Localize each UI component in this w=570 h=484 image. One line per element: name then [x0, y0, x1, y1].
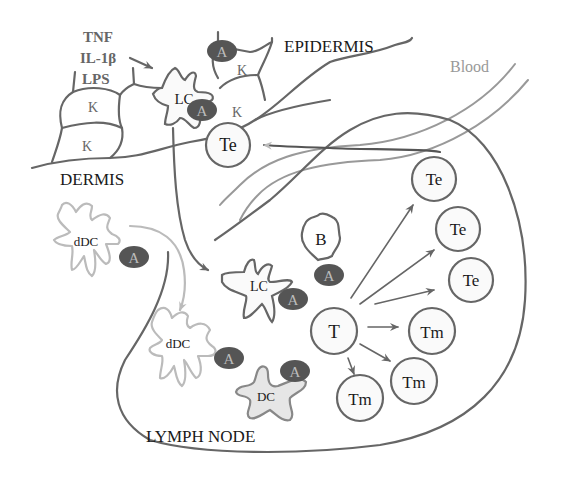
b-cell: B	[302, 213, 340, 260]
keratinocyte-label: K	[237, 63, 247, 78]
svg-text:A: A	[224, 351, 235, 367]
dermal-dc-dermis: dDC	[54, 203, 120, 276]
memory-t-cell: Tm	[337, 375, 383, 421]
dermis-label: DERMIS	[60, 170, 124, 189]
svg-text:T: T	[328, 321, 340, 342]
antigen-epidermis: A	[207, 40, 237, 62]
effector-t-cell: Te	[436, 207, 480, 251]
svg-text:dDC: dDC	[166, 336, 191, 351]
svg-text:dDC: dDC	[74, 234, 99, 249]
svg-text:Te: Te	[219, 135, 237, 155]
svg-text:Te: Te	[426, 170, 443, 189]
svg-text:A: A	[197, 103, 208, 119]
svg-text:A: A	[288, 292, 299, 308]
svg-text:A: A	[290, 364, 301, 380]
svg-text:B: B	[315, 230, 326, 249]
effector-t-cell: Te	[449, 258, 493, 302]
effector-t-cell-skin: Te	[206, 123, 250, 167]
svg-text:Tm: Tm	[402, 373, 426, 392]
svg-text:Tm: Tm	[348, 390, 372, 409]
blood-label: Blood	[450, 58, 489, 75]
svg-text:Tm: Tm	[420, 323, 444, 342]
stimulus-tnf: TNF	[83, 29, 113, 45]
antigen-lc-lymph: A	[278, 288, 308, 310]
stimulus-arrow	[130, 58, 152, 68]
antigen-lc-epidermis: A	[187, 99, 217, 121]
svg-text:A: A	[217, 44, 228, 60]
stimulus-il1b: IL-1β	[80, 50, 116, 66]
antigen-ddc-lymph: A	[214, 347, 244, 369]
antigen-dc: A	[280, 360, 310, 382]
dermal-dc-lymph-node: dDC	[150, 308, 216, 386]
memory-t-cell: Tm	[409, 308, 455, 354]
memory-t-cell: Tm	[391, 358, 437, 404]
svg-text:Te: Te	[463, 271, 480, 290]
epidermis-label: EPIDERMIS	[284, 37, 374, 56]
lymph-node-label: LYMPH NODE	[146, 427, 255, 446]
langerhans-cell-lymph-node: LC	[222, 260, 292, 322]
keratinocyte-label: K	[82, 139, 92, 154]
antigen-b-cell: A	[314, 264, 344, 286]
svg-text:LC: LC	[250, 279, 268, 294]
immune-migration-diagram: Te LC K K K K A A TNF IL-1β LPS EPIDERMI…	[0, 0, 570, 484]
antigen-ddc-dermis: A	[119, 246, 149, 268]
ddc-migration-arrow	[130, 226, 185, 310]
stimulus-lps: LPS	[82, 71, 110, 87]
keratinocyte-label: K	[88, 100, 98, 115]
t-cell: T	[311, 308, 357, 354]
svg-text:A: A	[324, 268, 335, 284]
svg-text:DC: DC	[257, 389, 275, 404]
svg-text:A: A	[129, 250, 140, 266]
svg-text:Te: Te	[450, 220, 467, 239]
keratinocyte-label: K	[232, 105, 242, 120]
effector-t-cell: Te	[412, 157, 456, 201]
